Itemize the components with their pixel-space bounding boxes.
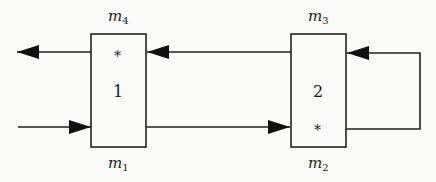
block-2-top-label: m3 xyxy=(308,7,329,26)
block-1-marker: * xyxy=(114,48,121,64)
block-1-bottom-label: m1 xyxy=(108,154,129,173)
block-1-top-label-base: m xyxy=(108,7,122,25)
block-2-bottom-label-sub: 2 xyxy=(322,162,328,173)
block-2-bottom-label: m2 xyxy=(308,154,329,173)
block-2-top-label-base: m xyxy=(308,7,322,25)
block-1-top-label: m4 xyxy=(108,7,129,26)
block-1-top-label-sub: 4 xyxy=(122,15,128,26)
arrow-block2-feedback-loop xyxy=(346,53,420,129)
block-1-bottom-label-sub: 1 xyxy=(122,162,128,173)
block-2-top-label-sub: 3 xyxy=(322,15,328,26)
block-2-bottom-label-base: m xyxy=(308,154,322,172)
flow-diagram xyxy=(0,0,436,182)
block-2-marker: * xyxy=(314,122,321,138)
block-1-bottom-label-base: m xyxy=(108,154,122,172)
block-2-label: 2 xyxy=(313,82,323,101)
block-1-label: 1 xyxy=(113,82,123,101)
